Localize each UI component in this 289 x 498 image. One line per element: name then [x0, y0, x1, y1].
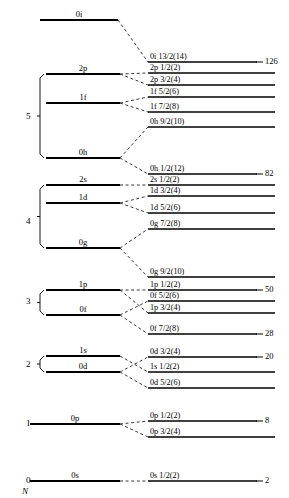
level-label-0s: 0s — [30, 471, 120, 480]
connector-1d — [120, 196, 148, 203]
connector-0d — [120, 372, 148, 388]
level-label-0f: 0f — [46, 305, 120, 314]
split-level-label-1p 3/2(4): 1p 3/2(4) — [150, 304, 180, 312]
connector-1f — [120, 103, 148, 112]
split-level-label-0f 7/2(8): 0f 7/2(8) — [150, 325, 179, 333]
level-label-0p: 0p — [30, 414, 120, 423]
split-level-label-0p 3/2(4): 0p 3/2(4) — [150, 428, 180, 436]
connector-0p — [120, 421, 148, 424]
connector-2p — [120, 73, 148, 74]
split-level-label-0i 13/2(14): 0i 13/2(14) — [150, 53, 187, 61]
split-level-label-0d 5/2(6): 0d 5/2(6) — [150, 379, 180, 387]
magic-number-28: 28 — [265, 329, 274, 338]
level-label-0i: 0i — [40, 10, 118, 19]
split-level-label-0f 5/2(6): 0f 5/2(6) — [150, 292, 179, 300]
connector-1d — [120, 203, 148, 213]
level-label-1p: 1p — [46, 280, 120, 289]
shell-bracket-5 — [40, 74, 44, 158]
split-level-label-0h 9/2(10): 0h 9/2(10) — [150, 118, 184, 126]
shell-number-5: 5 — [26, 112, 31, 121]
connector-1s — [120, 356, 148, 372]
split-level-label-0p 1/2(2): 0p 1/2(2) — [150, 412, 180, 420]
shell-number-4: 4 — [26, 217, 31, 226]
split-level-label-2s 1/2(2): 2s 1/2(2) — [150, 176, 179, 184]
magic-number-2: 2 — [265, 476, 269, 485]
split-level-label-1p 1/2(2): 1p 1/2(2) — [150, 281, 180, 289]
magic-number-126: 126 — [265, 57, 278, 66]
connector-0p — [120, 424, 148, 437]
level-label-1s: 1s — [46, 346, 120, 355]
connector-lines-group — [118, 20, 148, 481]
level-label-0g: 0g — [46, 238, 120, 247]
connector-0g — [120, 248, 148, 277]
split-level-label-0g 9/2(10): 0g 9/2(10) — [150, 268, 184, 276]
split-level-label-0h 1/2(12): 0h 1/2(12) — [150, 165, 184, 173]
connector-1f — [120, 97, 148, 103]
split-level-label-0g 7/2(8): 0g 7/2(8) — [150, 220, 180, 228]
split-level-label-1d 3/2(4): 1d 3/2(4) — [150, 187, 180, 195]
shell-bracket-2 — [40, 356, 44, 372]
magic-number-20: 20 — [265, 352, 274, 361]
connector-1p — [120, 290, 148, 313]
shell-brackets-group — [37, 74, 44, 372]
connector-0f — [120, 301, 148, 315]
diagram-canvas — [0, 0, 289, 498]
shell-bracket-3 — [40, 290, 44, 315]
connector-0h — [120, 158, 148, 174]
connector-0d — [120, 357, 148, 372]
axis-label-n: N — [22, 487, 28, 496]
connector-0f — [120, 315, 148, 334]
shell-model-diagram: 2p1f0h2s1d0g1p0f1s0d0p0s0i 0i 13/2(14)2p… — [0, 0, 289, 498]
shell-number-2: 2 — [26, 360, 31, 369]
split-level-label-0d 3/2(4): 0d 3/2(4) — [150, 348, 180, 356]
shell-bracket-4 — [40, 185, 44, 248]
connector-0h — [120, 127, 148, 158]
level-label-1d: 1d — [46, 193, 120, 202]
magic-number-50: 50 — [265, 285, 274, 294]
magic-number-82: 82 — [265, 169, 274, 178]
split-level-label-1d 5/2(6): 1d 5/2(6) — [150, 204, 180, 212]
magic-number-ticks-group — [256, 62, 263, 481]
split-level-label-1f 5/2(6): 1f 5/2(6) — [150, 88, 179, 96]
split-level-label-1s 1/2(2): 1s 1/2(2) — [150, 363, 179, 371]
connector-0i — [118, 20, 148, 62]
shell-number-0: 0 — [26, 476, 31, 485]
level-label-0h: 0h — [46, 148, 120, 157]
level-label-2s: 2s — [46, 175, 120, 184]
shell-number-3: 3 — [26, 297, 31, 306]
magic-number-8: 8 — [265, 416, 269, 425]
oscillator-level-lines-group — [30, 20, 120, 481]
level-label-1f: 1f — [46, 93, 120, 102]
shell-number-1: 1 — [26, 419, 31, 428]
connector-0g — [120, 229, 148, 248]
split-level-label-2p 3/2(4): 2p 3/2(4) — [150, 76, 180, 84]
level-label-2p: 2p — [46, 64, 120, 73]
connector-2p — [120, 74, 148, 85]
split-level-label-2p 1/2(2): 2p 1/2(2) — [150, 64, 180, 72]
split-level-label-0s 1/2(2): 0s 1/2(2) — [150, 472, 179, 480]
split-level-label-1f 7/2(8): 1f 7/2(8) — [150, 103, 179, 111]
level-label-0d: 0d — [46, 362, 120, 371]
